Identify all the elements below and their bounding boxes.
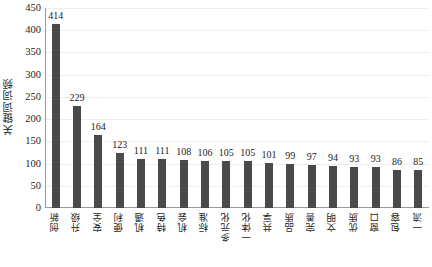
bar[interactable] [244,161,252,208]
bar-value-label: 94 [328,153,338,163]
x-axis-tick-label-text: 机遇 [136,212,146,232]
bar-series: 4142291641231111111081061051051019997949… [45,8,429,208]
y-axis-tick-label: 50 [31,181,42,192]
bar[interactable] [73,106,81,208]
x-axis-tick-label-text: 优质 [350,212,360,232]
x-axis-tick-label-text: 完善 [307,212,317,232]
bar[interactable] [180,160,188,208]
bar[interactable] [393,170,401,208]
x-axis-tick-label-text: 创新 [51,212,61,232]
x-axis-tick-label-text: 便利 [115,212,125,232]
y-axis-tick-label: 0 [36,203,41,214]
x-axis-tick-label: 一流 [408,212,429,232]
bar-slot: 105 [237,8,258,208]
bar[interactable] [286,164,294,208]
plot-area: 4142291641231111111081061051051019997949… [45,8,429,208]
x-axis-tick-label: 机会 [173,212,194,232]
x-axis-tick-label: 机遇 [130,212,151,232]
bar-value-label: 414 [48,11,63,21]
x-axis-tick-label-text: 窗口 [371,212,381,232]
x-axis-tick-label: 共享 [258,212,279,232]
bar-slot: 111 [152,8,173,208]
bar[interactable] [137,159,145,208]
bar-value-label: 123 [112,140,127,150]
bar-value-label: 105 [219,148,234,158]
bar-value-label: 85 [413,157,423,167]
bar-slot: 101 [258,8,279,208]
bar[interactable] [116,153,124,208]
bar-slot: 97 [301,8,322,208]
bar-slot: 99 [280,8,301,208]
y-axis-tick-labels: 450400350300250200150100500 [16,0,44,212]
bar-value-label: 97 [307,152,317,162]
bar-slot: 106 [194,8,215,208]
y-axis-tick-label: 200 [25,114,41,125]
y-axis-tick-label: 450 [25,3,41,14]
bar-slot: 229 [66,8,87,208]
x-axis-tick-label: 特色 [152,212,173,232]
bar[interactable] [414,170,422,208]
bar-value-label: 106 [197,148,212,158]
bar-value-label: 229 [69,93,84,103]
y-axis-tick-label: 250 [25,92,41,103]
bar-slot: 85 [408,8,429,208]
x-axis-tick-label: 多元化 [216,212,237,242]
bar-slot: 164 [88,8,109,208]
y-axis-tick-label: 350 [25,47,41,58]
x-axis-tick-label: 完善 [301,212,322,232]
bar-value-label: 105 [240,148,255,158]
x-axis-tick-label-text: 特色 [158,212,168,232]
bar[interactable] [94,135,102,208]
x-axis-tick-label-text: 文明 [328,212,338,232]
x-axis-tick-label-text: 机会 [179,212,189,232]
y-axis-tick-label: 300 [25,69,41,80]
y-axis-tick-label: 150 [25,136,41,147]
x-axis-tick-label-text: 多元化 [222,212,232,242]
x-axis-tick-label-text: 包容 [392,212,402,232]
bar-slot: 93 [344,8,365,208]
x-axis-tick-label: 创新 [45,212,66,232]
bar-value-label: 93 [349,154,359,164]
bar[interactable] [52,24,60,208]
x-axis-tick-label: 便利 [109,212,130,232]
y-axis-tick-label: 100 [25,158,41,169]
bar-slot: 108 [173,8,194,208]
bar[interactable] [308,165,316,208]
x-axis-tick-labels: 创新升级安全便利机遇特色机会标准多元化一体化共享品质完善文明优质窗口包容一流 [45,210,429,267]
bar-value-label: 86 [392,157,402,167]
x-axis-tick-label: 升级 [66,212,87,232]
x-axis-tick-label: 文明 [322,212,343,232]
x-axis-tick-label: 一体化 [237,212,258,242]
x-axis-tick-label-text: 一流 [414,212,424,232]
bar-slot: 93 [365,8,386,208]
x-axis-tick-label: 安全 [88,212,109,232]
x-axis-tick-label-text: 安全 [94,212,104,232]
bar-value-label: 93 [371,154,381,164]
bar-value-label: 111 [155,146,169,156]
x-axis-tick-label-text: 升级 [72,212,82,232]
bar-slot: 123 [109,8,130,208]
y-axis-tick-label: 400 [25,25,41,36]
x-axis-tick-label: 标准 [194,212,215,232]
bar[interactable] [350,167,358,208]
bar-value-label: 99 [285,151,295,161]
bar[interactable] [222,161,230,208]
x-axis-tick-label-text: 一体化 [243,212,253,242]
x-axis-tick-label: 优质 [344,212,365,232]
y-axis-title: 关键词词频 [0,0,16,212]
x-axis-tick-label: 包容 [386,212,407,232]
bar-value-label: 101 [261,150,276,160]
bar-slot: 94 [322,8,343,208]
y-axis-title-text: 关键词词频 [1,77,16,135]
bar-slot: 111 [130,8,151,208]
bar[interactable] [372,167,380,208]
bar[interactable] [201,161,209,208]
bar-slot: 86 [386,8,407,208]
x-axis-tick-label: 窗口 [365,212,386,232]
bar-slot: 105 [216,8,237,208]
bar[interactable] [329,166,337,208]
x-axis-tick-label-text: 品质 [286,212,296,232]
bar-value-label: 111 [134,146,148,156]
bar[interactable] [265,163,273,208]
bar[interactable] [158,159,166,208]
